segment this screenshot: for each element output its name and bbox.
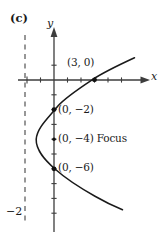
y-axis-label: y [47, 17, 53, 30]
point-marker-0-neg2 [52, 107, 57, 112]
point-label-focus: (0, −4) Focus [58, 132, 127, 144]
point-marker-3-0 [92, 77, 97, 82]
x-axis-arrowhead [141, 77, 151, 84]
point-label-upper: (0, −2) [58, 103, 94, 115]
x-axis-label: x [151, 70, 157, 83]
point-marker-focus-0-neg4 [52, 137, 56, 141]
point-label-lower: (0, −6) [58, 161, 94, 173]
point-marker-0-neg6 [52, 166, 57, 171]
figure-panel: (c) [0, 0, 164, 241]
directrix-tick-label: −2 [6, 205, 22, 218]
point-label-x-intercept: (3, 0) [67, 56, 94, 68]
parabola-plot [0, 0, 164, 241]
